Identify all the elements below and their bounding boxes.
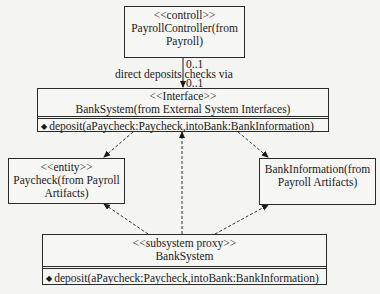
association-label: direct deposits checks via xyxy=(115,68,233,80)
interface-operation[interactable]: deposit(aPaycheck:Paycheck,intoBank:Bank… xyxy=(49,120,314,132)
dependency-proxy-paycheck xyxy=(104,204,148,234)
interface-name: BankSystem(from External System Interfac… xyxy=(38,103,328,116)
payroll-controller-class[interactable]: <<controll>> PayrollController(from Payr… xyxy=(124,6,245,58)
controller-name-line2: Payroll) xyxy=(125,35,244,48)
interface-operations: ◆deposit(aPaycheck:Paycheck,intoBank:Ban… xyxy=(38,116,328,132)
proxy-operations: ◆deposit(aPaycheck:Paycheck,intoBank:Ban… xyxy=(43,266,326,285)
bank-information-class[interactable]: BankInformation(from Payroll Artifacts) xyxy=(259,158,376,205)
paycheck-entity-class[interactable]: <<entity>> Paycheck(from Payroll Artifac… xyxy=(8,158,125,204)
controller-name-line1: PayrollController(from xyxy=(125,22,244,35)
controller-stereotype: <<controll>> xyxy=(125,9,244,22)
paycheck-name-line1: Paycheck(from Payroll xyxy=(9,174,124,187)
dependency-interface-bankinfo xyxy=(238,132,268,157)
operation-diamond-icon: ◆ xyxy=(46,274,52,283)
paycheck-name-line2: Artifacts) xyxy=(9,187,124,200)
bankinfo-name-line1: BankInformation(from xyxy=(260,163,375,176)
dependency-proxy-bankinfo xyxy=(215,205,268,234)
bankinfo-name-line2: Payroll Artifacts) xyxy=(260,176,375,189)
bank-system-proxy-class[interactable]: <<subsystem proxy>> BankSystem ◆deposit(… xyxy=(42,234,327,285)
dependency-interface-paycheck xyxy=(104,132,133,157)
operation-diamond-icon: ◆ xyxy=(41,122,47,131)
proxy-name: BankSystem xyxy=(43,250,326,263)
proxy-operation[interactable]: deposit(aPaycheck:Paycheck,intoBank:Bank… xyxy=(54,272,319,284)
paycheck-stereotype: <<entity>> xyxy=(9,161,124,174)
bank-system-interface-class[interactable]: <<Interface>> BankSystem(from External S… xyxy=(37,88,329,132)
proxy-stereotype: <<subsystem proxy>> xyxy=(43,237,326,250)
interface-stereotype: <<Interface>> xyxy=(38,90,328,103)
